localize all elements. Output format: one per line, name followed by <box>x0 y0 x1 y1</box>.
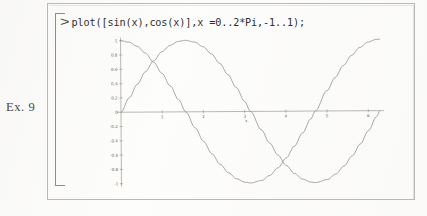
y-tick-label: -1 <box>114 181 119 186</box>
maple-plot: 123456x10.80.60.40.20-0.2-0.4-0.6-0.8-1 <box>95 32 386 192</box>
maple-input-line[interactable]: > plot([sin(x),cos(x)],x =0..2*Pi,-1..1)… <box>60 15 305 28</box>
y-tick-label: -0.6 <box>110 153 118 158</box>
command-input-text[interactable]: plot([sin(x),cos(x)],x =0..2*Pi,-1..1); <box>72 18 305 28</box>
y-tick-label: 0.6 <box>111 67 118 72</box>
plot-curves <box>121 39 381 184</box>
x-tick-label: 4 <box>285 114 288 119</box>
plot-output-region: 123456x10.80.60.40.20-0.2-0.4-0.6-0.8-1 <box>95 33 385 191</box>
exercise-label: Ex. 9 <box>6 100 35 115</box>
x-tick-label: 5 <box>326 113 329 118</box>
execution-group-bracket <box>55 13 65 186</box>
y-tick-label: 0.4 <box>111 81 118 86</box>
y-tick-label: 0.8 <box>111 53 118 58</box>
y-tick-label: 0.2 <box>111 95 118 100</box>
y-tick-label: 1 <box>115 38 118 43</box>
y-tick-label: -0.4 <box>110 138 118 143</box>
x-axis-name: x <box>245 118 248 123</box>
x-tick-label: 1 <box>161 114 164 119</box>
scanned-page: Ex. 9 > plot([sin(x),cos(x)],x =0..2*Pi,… <box>0 0 427 216</box>
curve-sinx <box>121 39 381 184</box>
y-tick-label: -0.8 <box>110 167 118 172</box>
prompt-caret-icon: > <box>60 16 69 28</box>
x-tick-label: 6 <box>367 113 370 118</box>
y-tick-label: -0.2 <box>110 124 118 129</box>
x-tick-label: 2 <box>202 114 205 119</box>
y-tick-label: 0 <box>115 110 118 115</box>
